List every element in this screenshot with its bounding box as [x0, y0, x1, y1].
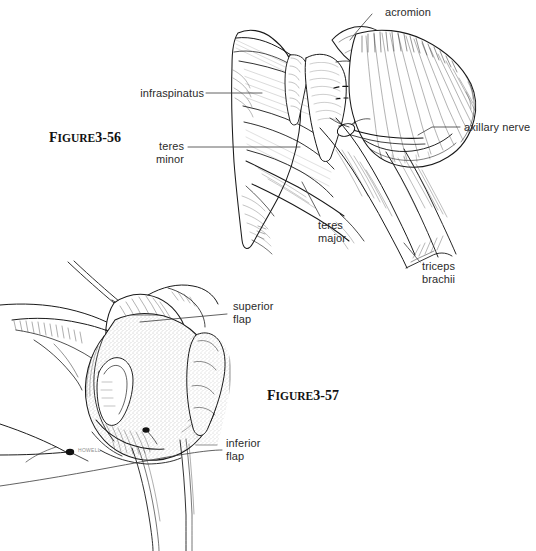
callout-triceps-brachii: tricepsbrachii [422, 260, 455, 285]
figure-3-57-artwork [0, 261, 230, 551]
callout-teres-minor: teresminor [108, 140, 184, 165]
figure-3-57-caption-rest: IGURE [276, 390, 314, 402]
anatomical-line-art [0, 0, 536, 551]
illustration-plate: FIGURE3-56 acromion infraspinatus teresm… [0, 0, 536, 551]
figure-3-56-caption-lead: F [49, 130, 58, 145]
artist-signature: HOWELL [78, 447, 101, 453]
callout-inferior-flap: inferiorflap [226, 437, 260, 462]
callout-teres-major: teresmajor [318, 219, 346, 244]
figure-3-56-caption-rest: IGURE [58, 132, 96, 144]
figure-3-57-caption: FIGURE3-57 [251, 368, 339, 422]
leader-triceps-brachii [404, 243, 420, 262]
callout-teres-minor-line1: teres [159, 140, 184, 152]
callout-superior-flap: superiorflap [233, 300, 274, 325]
callout-teres-minor-line2: minor [156, 153, 184, 165]
figure-3-57-caption-lead: F [267, 388, 276, 403]
callout-superior-flap-line1: superior [233, 300, 274, 312]
callout-triceps-brachii-line2: brachii [422, 273, 455, 285]
callout-infraspinatus: infraspinatus [118, 87, 204, 100]
callout-axillary-nerve: axillary nerve [464, 121, 530, 134]
figure-3-57-caption-number: 3-57 [313, 388, 339, 403]
callout-acromion: acromion [385, 6, 431, 19]
callout-teres-major-line2: major [318, 232, 346, 244]
callout-superior-flap-line2: flap [233, 313, 251, 325]
callout-triceps-brachii-line1: triceps [422, 260, 455, 272]
callout-inferior-flap-line1: inferior [226, 437, 260, 449]
callout-teres-major-line1: teres [318, 219, 343, 231]
callout-inferior-flap-line2: flap [226, 450, 244, 462]
